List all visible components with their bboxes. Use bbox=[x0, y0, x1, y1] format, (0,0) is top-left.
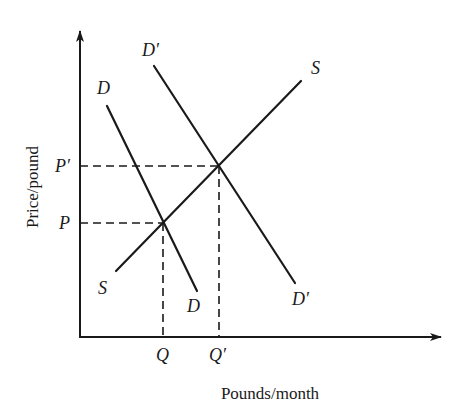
supply-demand-diagram: D D D′ D′ S S P′ P Q Q′ Pounds/month Pri… bbox=[0, 0, 450, 414]
demand-curve-original bbox=[107, 106, 197, 291]
diagram-canvas: D D D′ D′ S S P′ P Q Q′ Pounds/month Pri… bbox=[0, 0, 450, 414]
quantity-label-original: Q bbox=[156, 345, 169, 365]
price-label-shifted: P′ bbox=[54, 156, 71, 176]
supply-label-top: S bbox=[311, 58, 320, 78]
quantity-label-shifted: Q′ bbox=[209, 345, 227, 365]
y-axis-title: Price/pound bbox=[23, 145, 42, 228]
demand-shifted-label-top: D′ bbox=[141, 40, 160, 60]
supply-curve bbox=[116, 81, 301, 271]
price-label-original: P bbox=[58, 213, 70, 233]
demand-label-top: D bbox=[96, 78, 110, 98]
demand-shifted-label-bottom: D′ bbox=[291, 289, 310, 309]
supply-label-bottom: S bbox=[98, 278, 107, 298]
x-axis-title: Pounds/month bbox=[221, 384, 320, 403]
demand-curve-shifted bbox=[154, 66, 295, 283]
demand-label-bottom: D bbox=[186, 296, 200, 316]
